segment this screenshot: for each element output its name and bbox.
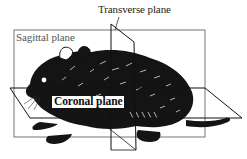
anatomical-planes-diagram: Transverse plane Sagittal plane Coronal … — [0, 0, 247, 159]
transverse-plane-label: Transverse plane — [98, 4, 171, 15]
sagittal-plane-label: Sagittal plane — [16, 32, 75, 43]
coronal-plane-label: Coronal plane — [52, 96, 124, 108]
diagram-canvas — [0, 0, 247, 159]
